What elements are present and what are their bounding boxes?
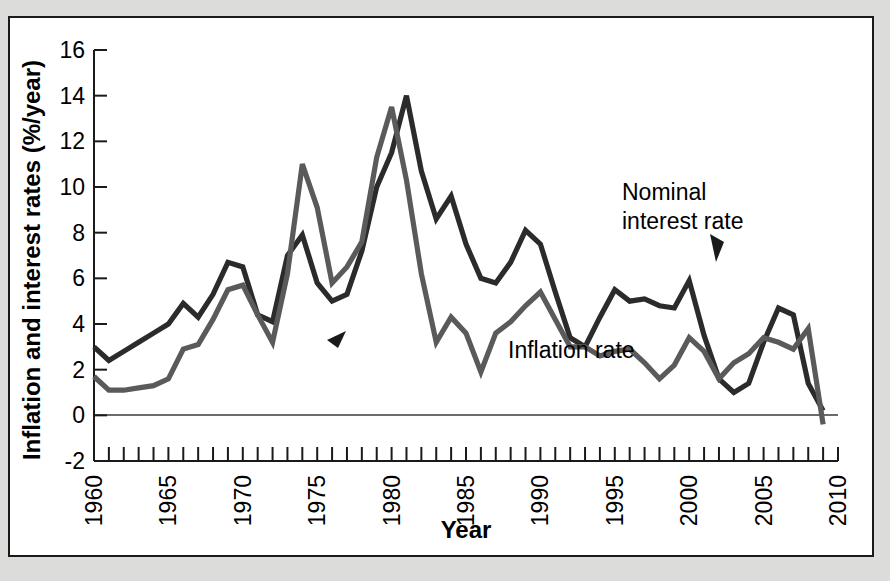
x-tick-label-1975: 1975 [304,475,330,526]
x-axis-ticks [94,447,838,461]
y-tick-label-12: 12 [59,128,85,154]
y-tick-label-6: 6 [72,265,85,291]
inflation-interest-rate-chart: -20246810121416 196019651970197519801985… [10,18,872,555]
series-line-nominal-interest-rate [94,96,823,411]
annotation-nominal-interest-rate-line1: Nominal [622,179,706,205]
figure-frame: -20246810121416 196019651970197519801985… [8,16,874,557]
y-tick-label-2: 2 [72,357,85,383]
y-axis-title: Inflation and interest rates (%/year) [18,60,45,460]
y-tick-label--2: -2 [65,448,85,474]
annotation-inflation-rate: Inflation rate [508,337,635,363]
x-tick-label-1960: 1960 [81,475,107,526]
x-tick-label-2010: 2010 [825,475,851,526]
x-tick-label-1980: 1980 [379,475,405,526]
x-tick-label-2000: 2000 [676,475,702,526]
y-axis-tick-labels: -20246810121416 [59,37,85,474]
y-tick-label-14: 14 [59,83,85,109]
x-tick-label-1990: 1990 [527,475,553,526]
x-tick-label-2005: 2005 [751,475,777,526]
y-axis-ticks [94,50,107,461]
y-tick-label-8: 8 [72,220,85,246]
x-tick-label-1970: 1970 [230,475,256,526]
figure-root: -20246810121416 196019651970197519801985… [0,0,890,581]
y-tick-label-0: 0 [72,402,85,428]
x-tick-label-1995: 1995 [602,475,628,526]
y-tick-label-10: 10 [59,174,85,200]
annotation-nominal-interest-rate-line2: interest rate [622,208,743,234]
x-tick-label-1965: 1965 [155,475,181,526]
y-tick-label-4: 4 [72,311,85,337]
annotation-pointer-nominal [710,234,724,262]
annotation-pointer-inflation [327,331,346,348]
x-axis-title: Year [441,516,492,543]
series-line-inflation-rate [94,107,823,424]
y-tick-label-16: 16 [59,37,85,63]
